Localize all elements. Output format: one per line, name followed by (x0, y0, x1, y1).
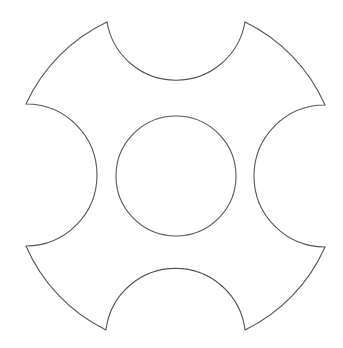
notched-disc-diagram (0, 0, 343, 348)
diagram-canvas (0, 0, 343, 348)
center-hole-circle (116, 116, 236, 236)
